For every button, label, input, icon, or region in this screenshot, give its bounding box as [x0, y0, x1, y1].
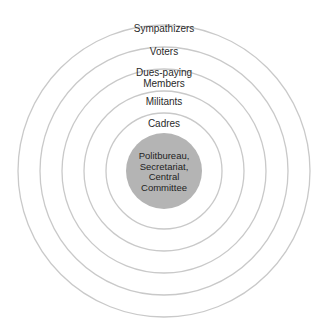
label-dues-paying-line2: Members: [136, 78, 192, 89]
label-dues-paying-line1: Dues-paying: [136, 67, 192, 78]
label-core: Politbureau, Secretariat, Central Commit…: [139, 151, 190, 193]
label-sympathizers: Sympathizers: [134, 23, 195, 34]
core-line-4: Committee: [139, 183, 190, 194]
core-line-3: Central: [139, 172, 190, 183]
core-line-1: Politbureau,: [139, 151, 190, 162]
label-voters: Voters: [150, 46, 178, 57]
label-militants: Militants: [146, 96, 183, 107]
label-cadres: Cadres: [148, 118, 180, 129]
label-dues-paying-members: Dues-paying Members: [136, 67, 192, 89]
